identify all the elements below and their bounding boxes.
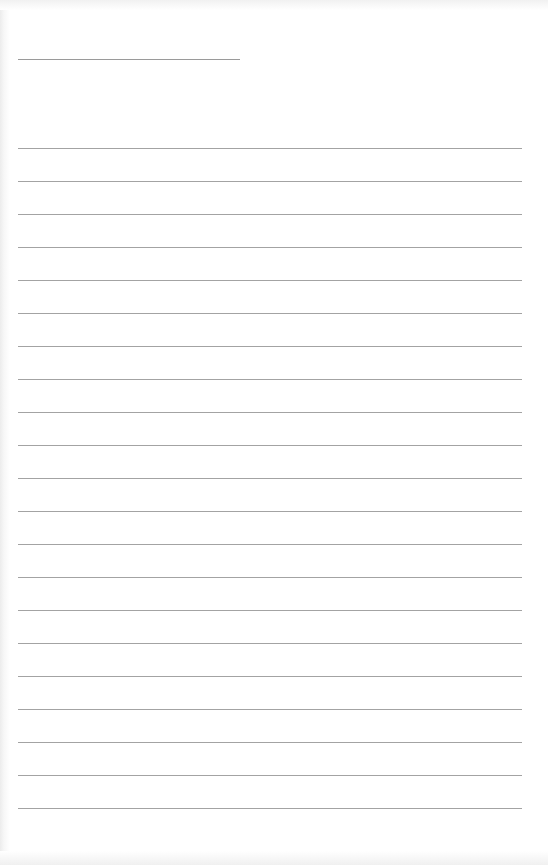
header-rule-line xyxy=(18,59,240,60)
rule-line xyxy=(18,379,522,380)
rule-line xyxy=(18,775,522,776)
rule-line xyxy=(18,478,522,479)
rule-line xyxy=(18,709,522,710)
rule-line xyxy=(18,214,522,215)
rule-line xyxy=(18,247,522,248)
rule-line xyxy=(18,676,522,677)
ruled-lines xyxy=(18,148,522,841)
rule-line xyxy=(18,742,522,743)
rule-line xyxy=(18,643,522,644)
rule-line xyxy=(18,511,522,512)
rule-line xyxy=(18,577,522,578)
rule-line xyxy=(18,412,522,413)
rule-line xyxy=(18,610,522,611)
rule-line xyxy=(18,445,522,446)
rule-line xyxy=(18,346,522,347)
lined-paper-page xyxy=(0,0,548,865)
page-top-edge xyxy=(0,0,548,10)
rule-line xyxy=(18,181,522,182)
rule-line xyxy=(18,313,522,314)
page-bottom-edge xyxy=(0,851,548,865)
rule-line xyxy=(18,808,522,809)
rule-line xyxy=(18,148,522,149)
rule-line xyxy=(18,544,522,545)
rule-line xyxy=(18,280,522,281)
